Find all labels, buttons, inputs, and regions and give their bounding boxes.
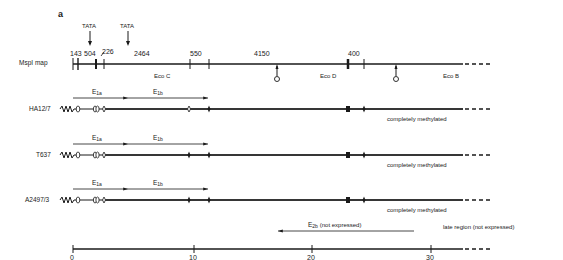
cell-line-name-3: A2497/3 xyxy=(25,196,49,203)
scale-tick-20: 20 xyxy=(307,254,315,260)
tata-arrow-2 xyxy=(126,31,130,46)
tata-label-1: TATA xyxy=(82,23,96,29)
cell-line-track-3 xyxy=(60,197,490,204)
late-region-label: late region (not expressed) xyxy=(443,224,514,230)
fragment-size-400: 400 xyxy=(348,50,360,57)
scale-axis xyxy=(73,245,490,253)
methylation-status-2: completely methylated xyxy=(387,162,447,168)
e2b-label: E2b (not expressed) xyxy=(308,221,361,229)
tata-label-2: TATA xyxy=(120,23,134,29)
e1a-label-row3: E1a xyxy=(92,179,102,187)
fragment-size-2464: 2464 xyxy=(134,50,150,57)
scale-tick-10: 10 xyxy=(189,254,197,260)
eco-d-label: Eco D xyxy=(320,73,336,79)
fragment-size-550: 550 xyxy=(190,50,202,57)
cell-line-track-1 xyxy=(60,106,490,113)
tata-arrow-1 xyxy=(88,31,92,46)
cell-line-track-2 xyxy=(60,152,490,159)
e1a-label-row1: E1a xyxy=(92,88,102,96)
cell-line-name-1: HA12/7 xyxy=(29,105,51,112)
fragment-size-143: 143 xyxy=(70,50,82,57)
cell-line-name-2: T637 xyxy=(36,151,51,158)
diagram-canvas xyxy=(0,0,563,260)
e1a-label-row2: E1a xyxy=(92,134,102,142)
mspi-map-label: MspI map xyxy=(19,59,48,66)
methylation-status-1: completely methylated xyxy=(387,116,447,122)
e1b-label-row3: E1b xyxy=(153,179,163,187)
methylation-status-3: completely methylated xyxy=(387,207,447,213)
fragment-size-504: 504 xyxy=(84,50,96,57)
e1b-label-row1: E1b xyxy=(153,88,163,96)
scale-tick-30: 30 xyxy=(426,254,434,260)
panel-label: a xyxy=(58,9,63,19)
scale-tick-0: 0 xyxy=(70,254,74,260)
ecori-site-2 xyxy=(394,64,399,82)
eco-c-label: Eco C xyxy=(154,73,170,79)
ecori-site-1 xyxy=(275,64,280,82)
fragment-size-226: 226 xyxy=(102,48,114,55)
eco-b-label: Eco B xyxy=(443,73,459,79)
fragment-size-4150: 4150 xyxy=(254,50,270,57)
e1b-label-row2: E1b xyxy=(153,134,163,142)
